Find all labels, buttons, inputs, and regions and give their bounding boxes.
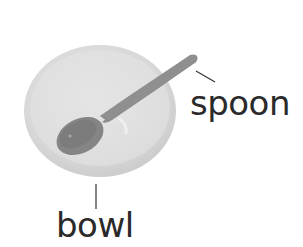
label-spoon: spoon — [190, 86, 290, 120]
spoon-leader-line — [196, 71, 215, 82]
illustration — [0, 0, 303, 247]
label-bowl: bowl — [56, 208, 134, 242]
bowl — [24, 45, 176, 177]
